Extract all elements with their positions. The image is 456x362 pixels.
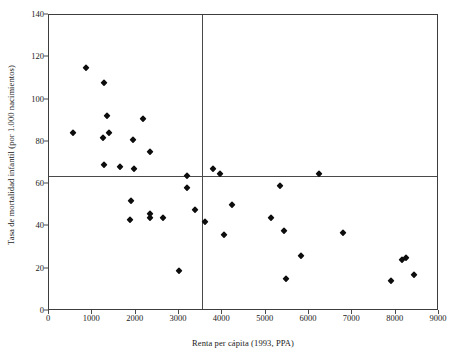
x-tick-mark bbox=[48, 310, 49, 314]
data-point-marker bbox=[100, 79, 108, 87]
data-point-marker bbox=[103, 113, 111, 121]
y-tick-label: 100 bbox=[20, 94, 44, 103]
data-point-marker bbox=[280, 227, 288, 235]
y-tick-label: 80 bbox=[20, 137, 44, 146]
reference-line-horizontal bbox=[49, 176, 437, 177]
data-point-marker bbox=[160, 214, 168, 222]
data-point-marker bbox=[191, 206, 199, 214]
data-point-marker bbox=[105, 130, 113, 138]
data-point-marker bbox=[388, 278, 396, 286]
x-tick-label: 9000 bbox=[418, 314, 456, 323]
data-point-marker bbox=[129, 136, 137, 144]
y-tick-label: 40 bbox=[20, 221, 44, 230]
reference-line-vertical bbox=[202, 15, 203, 309]
x-tick-mark bbox=[438, 310, 439, 314]
data-point-marker bbox=[297, 252, 305, 260]
x-tick-label: 1000 bbox=[71, 314, 111, 323]
data-point-marker bbox=[276, 182, 284, 190]
x-tick-mark bbox=[395, 310, 396, 314]
x-tick-mark bbox=[178, 310, 179, 314]
y-tick-label: 20 bbox=[20, 263, 44, 272]
data-point-marker bbox=[175, 267, 183, 275]
x-tick-label: 3000 bbox=[158, 314, 198, 323]
data-point-marker bbox=[228, 201, 236, 209]
x-tick-mark bbox=[265, 310, 266, 314]
data-point-marker bbox=[220, 231, 228, 239]
data-point-marker bbox=[183, 185, 191, 193]
data-point-marker bbox=[82, 64, 90, 72]
y-axis-title-text: Tasa de mortalidad infantil (por 1.000 n… bbox=[6, 65, 16, 245]
x-tick-label: 7000 bbox=[331, 314, 371, 323]
scatter-chart-figure: Tasa de mortalidad infantil (por 1.000 n… bbox=[0, 0, 456, 362]
data-point-marker bbox=[69, 130, 77, 138]
x-tick-mark bbox=[351, 310, 352, 314]
x-tick-mark bbox=[135, 310, 136, 314]
data-point-marker bbox=[127, 216, 135, 224]
data-point-marker bbox=[283, 275, 291, 283]
data-point-marker bbox=[140, 115, 148, 123]
data-point-marker bbox=[410, 271, 418, 279]
x-tick-mark bbox=[308, 310, 309, 314]
y-tick-label: 120 bbox=[20, 52, 44, 61]
x-tick-label: 8000 bbox=[375, 314, 415, 323]
data-point-marker bbox=[146, 214, 154, 222]
data-point-marker bbox=[99, 134, 107, 142]
data-point-marker bbox=[183, 172, 191, 180]
data-point-marker bbox=[128, 197, 136, 205]
y-tick-label: 0 bbox=[20, 306, 44, 315]
y-tick-label: 140 bbox=[20, 10, 44, 19]
x-tick-mark bbox=[91, 310, 92, 314]
x-tick-mark bbox=[221, 310, 222, 314]
y-axis-tick-labels: 020406080100120140 bbox=[18, 0, 44, 362]
x-tick-label: 2000 bbox=[115, 314, 155, 323]
plot-area bbox=[48, 14, 438, 310]
x-tick-label: 5000 bbox=[245, 314, 285, 323]
data-point-marker bbox=[130, 166, 138, 174]
x-tick-label: 6000 bbox=[288, 314, 328, 323]
x-tick-label: 0 bbox=[28, 314, 68, 323]
data-point-marker bbox=[267, 214, 275, 222]
x-tick-label: 4000 bbox=[201, 314, 241, 323]
data-point-marker bbox=[116, 163, 124, 171]
data-point-marker bbox=[100, 161, 108, 169]
data-point-marker bbox=[209, 166, 217, 174]
y-tick-label: 60 bbox=[20, 179, 44, 188]
x-axis-title: Renta per cápita (1993, PPA) bbox=[48, 338, 438, 348]
data-point-marker bbox=[146, 149, 154, 157]
data-point-marker bbox=[339, 229, 347, 237]
